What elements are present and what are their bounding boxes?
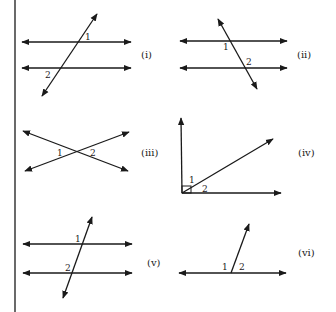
angle-2-label: 2	[45, 70, 51, 80]
transversal	[63, 217, 92, 298]
figure-label: (v)	[147, 257, 161, 268]
figure-vi: 1 2 (vi)	[179, 224, 315, 273]
angle-1-label: 1	[222, 262, 228, 272]
diagonal-ray	[182, 139, 273, 193]
figure-v: 1 2 (v)	[23, 217, 161, 298]
angle-2-label: 2	[90, 148, 96, 158]
diagram-canvas: 1 2 (i) 1 2 (ii) 1 2 (iii) 1	[0, 0, 336, 312]
angle-1-label: 1	[75, 234, 81, 244]
transversal	[218, 19, 257, 89]
figure-label: (vi)	[298, 247, 315, 258]
figure-iv: 1 2 (iv)	[181, 118, 315, 194]
angle-2-label: 2	[65, 263, 71, 273]
line-a	[23, 131, 128, 171]
figure-label: (ii)	[297, 49, 311, 60]
figure-label: (iii)	[141, 147, 158, 158]
vertical-ray	[181, 118, 182, 193]
angle-1-label: 1	[57, 148, 63, 158]
figure-label: (iv)	[298, 147, 315, 158]
figure-iii: 1 2 (iii)	[23, 131, 158, 171]
angle-2-label: 2	[202, 184, 208, 194]
angle-1-label: 1	[85, 32, 91, 42]
figure-i: 1 2 (i)	[22, 14, 152, 96]
figure-label: (i)	[141, 49, 152, 60]
angle-2-label: 2	[239, 262, 245, 272]
figure-ii: 1 2 (ii)	[180, 19, 311, 89]
transversal	[42, 14, 97, 96]
angle-2-label: 2	[246, 57, 252, 67]
angle-pairs-diagram: 1 2 (i) 1 2 (ii) 1 2 (iii) 1	[0, 0, 336, 312]
angle-1-label: 1	[223, 42, 229, 52]
angle-1-label: 1	[189, 175, 195, 185]
